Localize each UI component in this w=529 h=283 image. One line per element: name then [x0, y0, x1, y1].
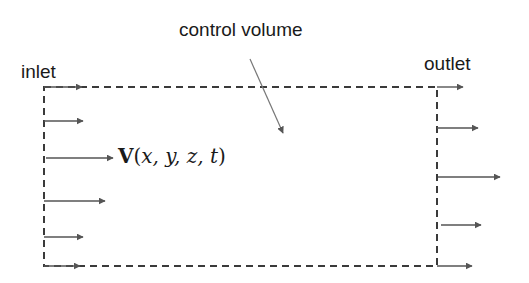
dashed-boundary-rect: [44, 87, 437, 266]
pointer-arrow: [250, 59, 283, 133]
control-volume-pointer-arrow: [250, 59, 283, 133]
inlet-arrows: [44, 87, 113, 266]
control-volume-boundary: [44, 87, 437, 266]
outlet-arrows: [437, 87, 500, 266]
control-volume-diagram: [0, 0, 529, 283]
